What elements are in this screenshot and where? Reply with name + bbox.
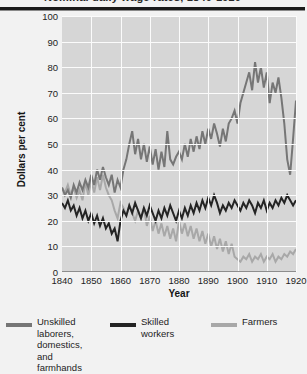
legend-swatch-icon (211, 323, 237, 327)
y-axis-tick-label: 70 (2, 87, 58, 98)
gridline-vertical (91, 16, 92, 272)
legend: Unskilled laborers, domestics, and farmh… (6, 318, 305, 368)
gridline-vertical (208, 16, 209, 272)
x-axis-line (62, 271, 296, 272)
gridline-vertical (179, 16, 180, 272)
y-axis-tick-label: 20 (2, 215, 58, 226)
y-axis: Dollars per cent 1009080706050403020100 (0, 16, 58, 272)
x-axis-title: Year (62, 288, 296, 299)
x-axis-tick-label: 1860 (110, 275, 131, 286)
y-axis-tick-label: 80 (2, 62, 58, 73)
legend-swatch-icon (110, 323, 136, 327)
y-axis-tick-label: 100 (2, 11, 58, 22)
y-axis-tick-label: 90 (2, 36, 58, 47)
x-axis-tick-label: 1880 (168, 275, 189, 286)
gridline-vertical (238, 16, 239, 272)
y-axis-tick-label: 30 (2, 190, 58, 201)
y-axis-tick-label: 50 (2, 139, 58, 150)
x-axis-tick-label: 1910 (256, 275, 277, 286)
legend-label: Farmers (242, 316, 277, 328)
gridline-vertical (267, 16, 268, 272)
y-axis-title: Dollars per cent (16, 95, 27, 205)
y-axis-tick-label: 0 (2, 267, 58, 278)
gridline-vertical (150, 16, 151, 272)
x-axis-tick-label: 1890 (198, 275, 219, 286)
y-axis-tick-label: 40 (2, 164, 58, 175)
x-axis: 184018501860187018801890190019101920 (62, 275, 296, 289)
legend-swatch-icon (6, 323, 32, 327)
y-axis-tick-label: 60 (2, 113, 58, 124)
page-title: Nominal daily wage rates, 1840-1920 (44, 0, 241, 3)
x-axis-tick-label: 1900 (227, 275, 248, 286)
figure-title-band: Nominal daily wage rates, 1840-1920 (0, 0, 305, 7)
legend-label: Skilled workers (141, 316, 174, 339)
gridline-vertical (296, 16, 297, 272)
gridline-vertical (121, 16, 122, 272)
y-axis-tick-label: 10 (2, 241, 58, 252)
x-axis-tick-label: 1870 (139, 275, 160, 286)
x-axis-tick-label: 1920 (285, 275, 306, 286)
legend-label: Unskilled laborers, domestics, and farmh… (37, 316, 82, 374)
x-axis-tick-label: 1850 (81, 275, 102, 286)
x-axis-tick-label: 1840 (51, 275, 72, 286)
plot-area (62, 16, 296, 272)
